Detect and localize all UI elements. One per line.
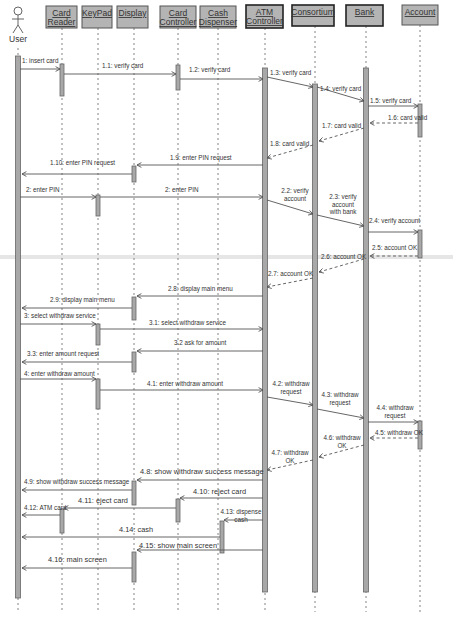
message[interactable]: 2.7: account OK bbox=[267, 270, 314, 289]
message[interactable]: 4.3: withdrawrequest bbox=[317, 391, 364, 420]
message-label: 4.1: enter withdraw amount bbox=[147, 380, 223, 387]
message[interactable]: 4.10: reject card bbox=[180, 487, 263, 500]
activation-atmctrl bbox=[263, 68, 268, 592]
message[interactable]: 4.1: enter withdraw amount bbox=[100, 380, 263, 392]
message[interactable]: 1.5: verify card bbox=[368, 97, 418, 108]
object-cardctrl[interactable]: CardController bbox=[160, 6, 197, 28]
message-arrow bbox=[267, 77, 313, 87]
activation-account bbox=[418, 230, 422, 258]
message-label: 1.3: verify card bbox=[270, 69, 312, 77]
message[interactable]: 4.7: withdrawOK bbox=[267, 449, 313, 471]
object-label: Controller bbox=[246, 16, 283, 26]
actor-leg-left bbox=[13, 25, 18, 33]
message-label: 4.9: show withdraw success message bbox=[24, 478, 130, 486]
message-label: 4.7: withdraw bbox=[271, 449, 309, 456]
message[interactable]: 1: insert card bbox=[20, 57, 60, 71]
message-arrow bbox=[317, 409, 364, 418]
return-arrow bbox=[319, 128, 364, 141]
message-label: 4.10: reject card bbox=[193, 487, 246, 496]
message[interactable]: 4.16: main screen bbox=[22, 555, 132, 570]
message-label: 4.2: withdraw bbox=[272, 380, 310, 387]
message-label: 4.3: withdraw bbox=[321, 391, 359, 398]
message[interactable]: 2: enter PIN bbox=[100, 186, 263, 199]
message[interactable]: 2.8: display main menu bbox=[137, 285, 263, 298]
object-keypad[interactable]: KeyPad bbox=[82, 6, 112, 28]
activation-display bbox=[132, 552, 136, 582]
message[interactable]: 4.4: withdrawrequest bbox=[368, 404, 418, 424]
message[interactable]: 1.3: verify card bbox=[267, 69, 313, 88]
object-label: Reader bbox=[48, 17, 76, 27]
message[interactable]: 4.8: show withdraw success message bbox=[137, 467, 264, 482]
message[interactable]: 2.3: verifyaccountwith bank bbox=[317, 193, 364, 227]
message[interactable]: 2.6: account OK bbox=[319, 253, 367, 273]
message[interactable]: 1.8: card valid bbox=[267, 140, 313, 159]
message-label: 4: enter withdraw amount bbox=[24, 370, 95, 377]
message[interactable]: 4.5: withdraw OK bbox=[370, 429, 424, 440]
activation-cardreader bbox=[60, 64, 64, 96]
message[interactable]: 2.2: verifyaccount bbox=[267, 187, 313, 215]
message-label: 1.10: enter PIN request bbox=[50, 159, 115, 167]
message[interactable]: 1.1: verify card bbox=[64, 62, 176, 76]
activation-cardreader bbox=[60, 509, 64, 533]
activation-display bbox=[132, 481, 136, 505]
message[interactable]: 4.9: show withdraw success message bbox=[22, 478, 132, 492]
message[interactable]: 4.11: eject card bbox=[64, 496, 176, 510]
return-arrow bbox=[267, 278, 313, 287]
object-label: Account bbox=[405, 7, 436, 17]
message-label: 1.8: card valid bbox=[270, 140, 310, 147]
arrowhead-icon bbox=[319, 137, 324, 142]
object-label: Controller bbox=[160, 17, 197, 27]
arrowhead-icon bbox=[319, 268, 324, 273]
message[interactable]: 4: enter withdraw amount bbox=[20, 370, 96, 381]
message-label: request bbox=[329, 399, 350, 407]
activation-display bbox=[132, 352, 136, 372]
message[interactable]: 4.13: dispensecash bbox=[221, 508, 263, 523]
message-label: 2.8: display main menu bbox=[168, 285, 233, 293]
sequence-diagram: 1: insert card1.1: verify card1.2: verif… bbox=[0, 0, 453, 629]
message-label: 2.6: account OK bbox=[321, 253, 367, 260]
message[interactable]: 2.4: verify account bbox=[368, 217, 420, 234]
object-label: Consortium bbox=[291, 7, 334, 17]
activation-bank bbox=[364, 68, 369, 592]
message[interactable]: 1.10: enter PIN request bbox=[22, 159, 132, 176]
message[interactable]: 1.9: enter PIN request bbox=[137, 154, 263, 167]
message-label: 3: select withdraw service bbox=[24, 312, 96, 319]
message-label: cash bbox=[234, 516, 248, 523]
message[interactable]: 1.4: verify card bbox=[317, 85, 364, 102]
object-bank[interactable]: Bank bbox=[346, 5, 383, 26]
message-label: 1.2: verify card bbox=[189, 66, 231, 74]
message[interactable]: 1.7: card valid bbox=[319, 122, 364, 142]
message-label: 3.3: enter amount request bbox=[27, 350, 99, 358]
object-cardreader[interactable]: CardReader bbox=[46, 6, 77, 28]
message-arrow bbox=[317, 215, 364, 226]
message[interactable]: 2: enter PIN bbox=[20, 186, 96, 199]
object-account[interactable]: Account bbox=[402, 5, 438, 25]
message[interactable]: 4.6: withdrawOK bbox=[319, 434, 364, 458]
message[interactable]: 4.14: cash bbox=[22, 525, 220, 539]
message[interactable]: 3.3: enter amount request bbox=[22, 350, 132, 364]
message-label: 4.16: main screen bbox=[48, 555, 107, 564]
message-label: account bbox=[284, 195, 306, 202]
activation-keypad bbox=[96, 195, 100, 216]
message[interactable]: 2.5: account OK bbox=[370, 244, 418, 258]
message[interactable]: 1.2: verify card bbox=[180, 66, 263, 81]
object-display[interactable]: Display bbox=[117, 6, 148, 28]
actor-head-icon bbox=[14, 7, 22, 15]
message-label: account bbox=[332, 201, 354, 208]
message[interactable]: 4.2: withdrawrequest bbox=[267, 380, 313, 407]
message-label: 1: insert card bbox=[22, 57, 59, 64]
activation-display bbox=[132, 166, 136, 182]
object-atmctrl[interactable]: ATMController bbox=[246, 5, 283, 28]
message[interactable]: 4.15: show main screen bbox=[137, 541, 263, 552]
message[interactable]: 3.2 ask for amount bbox=[137, 339, 263, 353]
actor-user[interactable]: User bbox=[9, 7, 27, 44]
object-consortium[interactable]: Consortium bbox=[291, 5, 334, 26]
message[interactable]: 3: select withdraw service bbox=[20, 312, 96, 326]
object-cashdisp[interactable]: CashDispenser bbox=[199, 6, 237, 28]
message-label: 2.7: account OK bbox=[268, 270, 314, 277]
message-label: 2.4: verify account bbox=[369, 217, 420, 225]
message[interactable]: 3.1: select withdraw service bbox=[100, 319, 263, 331]
activation-user bbox=[16, 56, 21, 598]
message[interactable]: 2.9: display main menu bbox=[22, 296, 132, 310]
message-label: 1.6: card valid bbox=[388, 114, 428, 121]
